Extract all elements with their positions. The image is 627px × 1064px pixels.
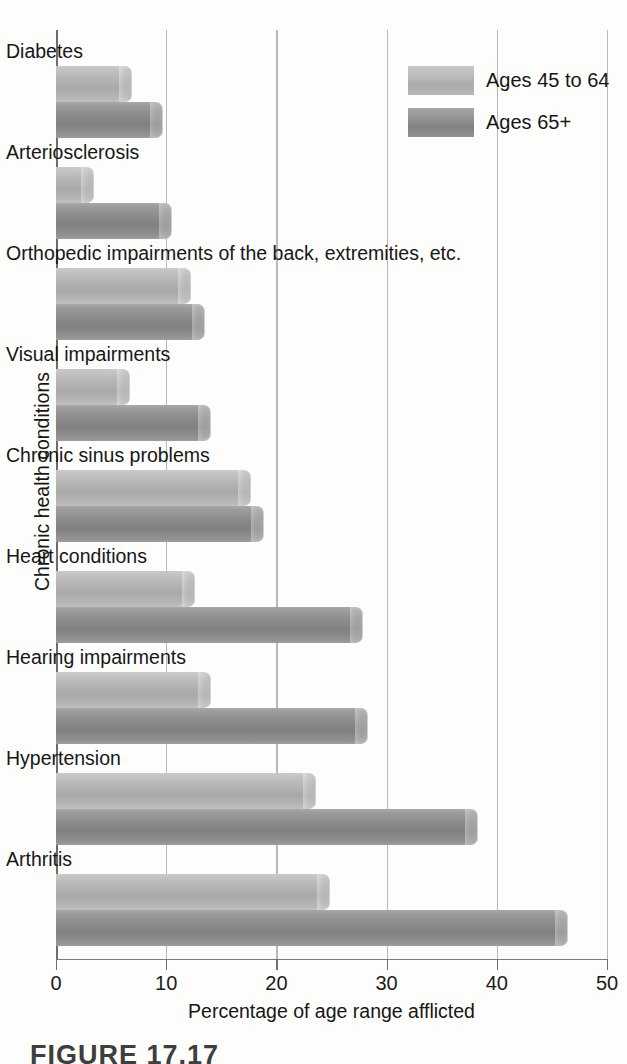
legend-label: Ages 65+ xyxy=(486,111,571,134)
bar-cap xyxy=(555,910,568,946)
x-tick-label-20: 20 xyxy=(265,972,287,995)
bar-cap xyxy=(117,369,130,405)
bar-cap xyxy=(150,102,163,138)
bar-ages-45-64[interactable] xyxy=(56,66,131,102)
x-tick-10 xyxy=(166,959,167,970)
category-label: Diabetes xyxy=(6,38,83,64)
bar-cap xyxy=(178,268,191,304)
bar-cap xyxy=(192,304,205,340)
x-tick-label-10: 10 xyxy=(155,972,177,995)
bar-cap xyxy=(303,773,316,809)
bar-ages-45-64[interactable] xyxy=(56,874,329,910)
bar-cap xyxy=(198,672,211,708)
bar-ages-65plus[interactable] xyxy=(56,203,171,239)
legend-item-ages-45-64[interactable]: Ages 45 to 64 xyxy=(408,62,618,98)
gridline-50 xyxy=(607,30,608,960)
legend-label: Ages 45 to 64 xyxy=(486,69,609,92)
category-label: Hearing impairments xyxy=(6,644,186,670)
x-tick-40 xyxy=(497,959,498,970)
legend: Ages 45 to 64 Ages 65+ xyxy=(408,62,618,146)
bar-ages-45-64[interactable] xyxy=(56,773,315,809)
category-label: Orthopedic impairments of the back, extr… xyxy=(6,240,461,266)
bar-ages-65plus[interactable] xyxy=(56,910,567,946)
bar-cap xyxy=(81,167,94,203)
category-label: Hypertension xyxy=(6,745,121,771)
bar-ages-65plus[interactable] xyxy=(56,102,162,138)
category-label: Arteriosclerosis xyxy=(6,139,139,165)
bar-cap xyxy=(350,607,363,643)
gridline-40 xyxy=(497,30,498,960)
y-axis-title: Chronic health conditions xyxy=(31,352,54,612)
x-axis-title: Percentage of age range afflicted xyxy=(56,1000,607,1023)
bar-ages-65plus[interactable] xyxy=(56,405,210,441)
x-tick-0 xyxy=(56,959,57,970)
legend-item-ages-65plus[interactable]: Ages 65+ xyxy=(408,104,618,140)
category-label: Heart conditions xyxy=(6,543,147,569)
bar-ages-45-64[interactable] xyxy=(56,672,210,708)
bar-ages-65plus[interactable] xyxy=(56,607,362,643)
x-tick-label-40: 40 xyxy=(486,972,508,995)
bar-ages-65plus[interactable] xyxy=(56,708,367,744)
bar-cap xyxy=(251,506,264,542)
figure-caption: FIGURE 17.17 xyxy=(30,1040,219,1064)
x-tick-label-30: 30 xyxy=(375,972,397,995)
bar-ages-45-64[interactable] xyxy=(56,268,190,304)
bar-cap xyxy=(355,708,368,744)
legend-swatch-icon xyxy=(408,66,474,95)
category-label: Arthritis xyxy=(6,846,72,872)
bar-cap xyxy=(159,203,172,239)
bar-ages-65plus[interactable] xyxy=(56,304,204,340)
bar-ages-65plus[interactable] xyxy=(56,809,477,845)
bar-ages-45-64[interactable] xyxy=(56,167,93,203)
x-axis-line xyxy=(56,959,608,960)
bar-ages-45-64[interactable] xyxy=(56,571,194,607)
x-tick-20 xyxy=(276,959,277,970)
figure-root: 0 10 20 30 40 50 Diabetes Arterioscleros… xyxy=(0,0,627,1064)
bar-ages-45-64[interactable] xyxy=(56,369,129,405)
bar-cap xyxy=(198,405,211,441)
bar-cap xyxy=(182,571,195,607)
x-tick-50 xyxy=(607,959,608,970)
bar-cap xyxy=(465,809,478,845)
x-tick-label-0: 0 xyxy=(50,972,61,995)
bar-ages-65plus[interactable] xyxy=(56,506,263,542)
bar-ages-45-64[interactable] xyxy=(56,470,250,506)
bar-cap xyxy=(238,470,251,506)
bar-cap xyxy=(119,66,132,102)
bar-cap xyxy=(317,874,330,910)
x-tick-label-50: 50 xyxy=(596,972,618,995)
legend-swatch-icon xyxy=(408,108,474,137)
x-tick-30 xyxy=(387,959,388,970)
